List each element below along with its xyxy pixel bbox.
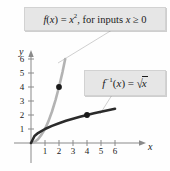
x-tick-label-3: 3 xyxy=(68,146,78,156)
y-tick-label-1: 1 xyxy=(17,124,27,134)
relation-ge-zero: ≥ 0 xyxy=(130,14,146,25)
x-tick-label-2: 2 xyxy=(54,146,64,156)
x-axis-arrow xyxy=(139,140,146,145)
equals-sign: = xyxy=(58,14,69,25)
x-tick-label-4: 4 xyxy=(82,146,92,156)
text-for-inputs: , for inputs xyxy=(77,14,125,25)
inverse-callout: f−1(x) = √x xyxy=(84,70,166,96)
graph-figure: y x 1 2 3 4 5 6 1 2 3 4 5 6 f(x) = x2, f… xyxy=(0,0,170,171)
x-axis-label: x xyxy=(148,141,152,152)
equals-sign-inv: = xyxy=(125,77,137,89)
y-tick-label-5: 5 xyxy=(17,68,27,78)
x-tick-label-6: 6 xyxy=(110,146,120,156)
leader-line-function xyxy=(58,30,112,63)
y-tick-label-6: 6 xyxy=(17,54,27,64)
x-tick-label-1: 1 xyxy=(40,146,50,156)
x-tick-label-5: 5 xyxy=(96,146,106,156)
y-tick-label-3: 3 xyxy=(17,96,27,106)
y-axis-arrow xyxy=(28,50,33,57)
y-tick-label-4: 4 xyxy=(17,82,27,92)
radical-sign: √ xyxy=(137,77,143,90)
function-callout-text: f(x) = x2, for inputs x ≥ 0 xyxy=(43,13,146,25)
point-marker-4-2 xyxy=(84,112,90,118)
function-callout: f(x) = x2, for inputs x ≥ 0 xyxy=(24,7,166,31)
y-tick-label-2: 2 xyxy=(17,110,27,120)
inverse-callout-text: f−1(x) = √x xyxy=(102,76,147,90)
sqrt-curve xyxy=(31,109,115,143)
exponent-minus-1: −1 xyxy=(105,77,112,85)
parabola-curve xyxy=(31,59,65,143)
point-marker-2-4 xyxy=(56,84,62,90)
